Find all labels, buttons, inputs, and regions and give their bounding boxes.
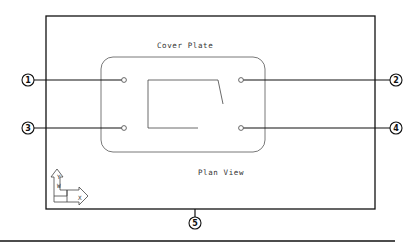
title-label: Cover Plate <box>157 41 213 50</box>
ucs-x-label: X <box>78 194 82 201</box>
ucs-y-label: Y <box>57 173 61 180</box>
cutout-left-bottom-edge[interactable] <box>148 80 198 128</box>
balloon-4[interactable]: 4 <box>390 122 402 134</box>
balloon-number: 3 <box>25 124 31 133</box>
cutout-top-edge[interactable] <box>148 80 223 104</box>
hole-bottom-right[interactable] <box>239 126 244 131</box>
view-label: Plan View <box>198 168 244 177</box>
balloon-5[interactable]: 5 <box>189 217 201 229</box>
hole-bottom-left[interactable] <box>122 126 127 131</box>
balloon-1[interactable]: 1 <box>22 74 34 86</box>
balloon-number: 4 <box>393 124 399 133</box>
hole-top-right[interactable] <box>239 78 244 83</box>
balloon-number: 5 <box>192 219 198 228</box>
cover-plate-outline[interactable] <box>101 57 265 152</box>
ucs-icon: Y W X <box>51 169 88 205</box>
hole-top-left[interactable] <box>122 78 127 83</box>
balloon-3[interactable]: 3 <box>22 122 34 134</box>
balloon-number: 2 <box>393 76 399 85</box>
balloon-number: 1 <box>25 76 31 85</box>
balloon-2[interactable]: 2 <box>390 74 402 86</box>
drawing-canvas: Cover Plate 1 2 3 4 5 Plan View <box>0 0 420 245</box>
ucs-w-label: W <box>57 182 61 189</box>
